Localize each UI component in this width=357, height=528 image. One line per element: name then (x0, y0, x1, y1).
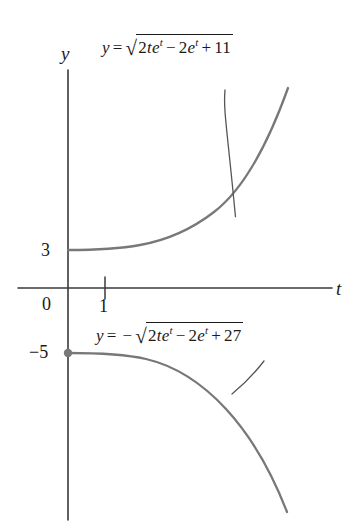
curve-upper (68, 88, 288, 250)
plot-canvas (0, 0, 357, 528)
formula-lower-radical: √2tet−2et+27 (135, 322, 243, 349)
radicand-constant: 27 (224, 326, 241, 345)
term2-var: e (187, 38, 195, 57)
formula-upper-lhs: y (102, 38, 110, 57)
curve-lower (68, 353, 287, 512)
initial-point-marker (64, 349, 72, 357)
formula-lower-radicand: 2tet−2et+27 (146, 322, 243, 346)
y-tick-label-neg5: −5 (29, 343, 48, 361)
formula-lower-equals: = (104, 326, 120, 345)
formula-lower-curve: y=−√2tet−2et+27 (96, 322, 243, 349)
term2-coeff: 2 (189, 326, 198, 345)
radicand-op1: − (173, 326, 189, 345)
formula-upper-equals: = (110, 38, 126, 57)
formula-upper-radical: √2tet−2et+11 (126, 34, 233, 61)
radicand-constant: 11 (214, 38, 231, 57)
y-tick-label-3: 3 (41, 241, 50, 259)
radicand-op2: + (198, 38, 214, 57)
term1-coeff: 2 (138, 38, 147, 57)
formula-lower-sign: − (120, 326, 136, 345)
term1-var: te (157, 326, 170, 345)
x-tick-label-1: 1 (99, 297, 108, 315)
term1-coeff: 2 (148, 326, 157, 345)
y-axis-label: y (61, 44, 69, 63)
formula-lower-lhs: y (96, 326, 104, 345)
formula-upper-radicand: 2tet−2et+11 (136, 34, 233, 58)
term2-var: e (197, 326, 205, 345)
leader-line-lower (232, 361, 264, 394)
graph-figure: y t 3 0 1 −5 y=√2tet−2et+11 y=−√2tet−2et… (0, 0, 357, 528)
radicand-op1: − (163, 38, 179, 57)
x-axis-label: t (336, 279, 341, 298)
formula-upper-curve: y=√2tet−2et+11 (102, 34, 233, 61)
radicand-op2: + (208, 326, 224, 345)
origin-label: 0 (42, 295, 51, 313)
term1-var: te (147, 38, 160, 57)
